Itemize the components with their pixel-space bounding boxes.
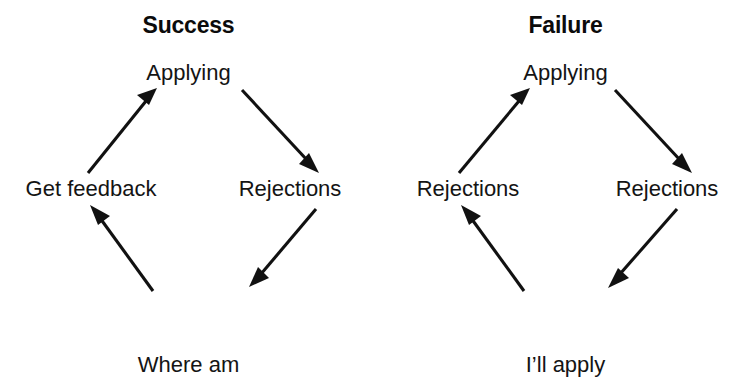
- arrow-left-to-top: [88, 88, 157, 173]
- arrow-bottom-to-left: [90, 205, 153, 291]
- node-failure-left: Rejections: [383, 176, 553, 202]
- arrow-top-to-right: [615, 90, 692, 173]
- node-failure-bottom-line1: I’ll apply: [377, 352, 754, 378]
- panel-success: Success Applying Get fe: [0, 0, 377, 389]
- arrow-top-to-right: [242, 90, 319, 173]
- arrow-right-to-bottom: [249, 209, 316, 287]
- node-success-left: Get feedback: [6, 176, 176, 202]
- node-success-top: Applying: [0, 60, 377, 86]
- panel-failure: Failure Applying Reject: [377, 0, 754, 389]
- node-success-bottom-line1: Where am: [0, 352, 377, 378]
- arrow-bottom-to-left: [461, 205, 524, 291]
- diagram-canvas: Success Applying Get fe: [0, 0, 754, 389]
- node-failure-bottom: I’ll apply for anything: [377, 300, 754, 389]
- arrow-left-to-top: [459, 88, 530, 173]
- node-failure-top: Applying: [377, 60, 754, 86]
- node-failure-right: Rejections: [587, 176, 747, 202]
- node-success-right: Rejections: [210, 176, 370, 202]
- node-success-bottom: Where am I going wrong?: [0, 300, 377, 389]
- arrow-right-to-bottom: [608, 209, 677, 288]
